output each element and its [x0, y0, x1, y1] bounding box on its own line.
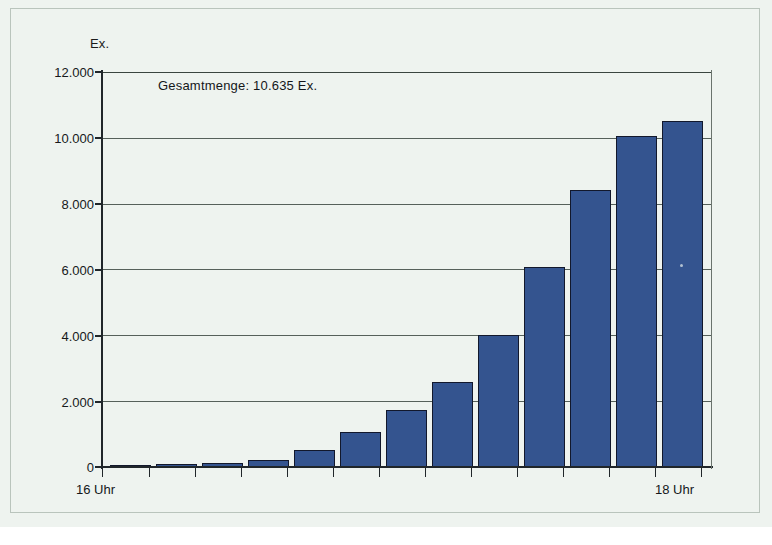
x-tick-mark-3 — [241, 468, 242, 477]
caption-strip — [0, 527, 772, 545]
y-tick-labels: 12.000 10.000 8.000 6.000 4.000 2.000 0 — [22, 0, 94, 545]
total-quantity-annotation: Gesamtmenge: 10.635 Ex. — [158, 78, 317, 93]
x-tick-mark-5 — [333, 468, 334, 477]
y-tick-label-0: 0 — [24, 460, 94, 475]
x-axis-spine — [101, 466, 713, 468]
y-tick-label-4000: 4.000 — [24, 329, 94, 344]
scan-artifact-speck — [680, 264, 683, 267]
y-tick-mark-12000 — [95, 71, 103, 73]
x-tick-mark-1 — [149, 468, 150, 477]
y-tick-mark-2000 — [95, 401, 103, 403]
bar-8 — [432, 382, 473, 467]
x-tick-mark-0 — [102, 468, 103, 477]
y-tick-mark-8000 — [95, 203, 103, 205]
bar-11 — [570, 190, 611, 467]
y-tick-mark-10000 — [95, 137, 103, 139]
y-tick-label-12000: 12.000 — [24, 65, 94, 80]
x-tick-mark-9 — [517, 468, 518, 477]
bars-layer — [102, 72, 712, 467]
x-axis-label-start: 16 Uhr — [76, 482, 115, 497]
x-tick-mark-2 — [195, 468, 196, 477]
figure-panel: Ex. — [0, 0, 772, 527]
x-tick-mark-11 — [609, 468, 610, 477]
y-tick-label-2000: 2.000 — [24, 395, 94, 410]
y-tick-mark-6000 — [95, 269, 103, 271]
x-tick-mark-13 — [701, 468, 702, 477]
bar-10 — [524, 267, 565, 467]
bar-6 — [340, 432, 381, 467]
x-tick-mark-8 — [471, 468, 472, 477]
bar-5 — [294, 450, 335, 467]
bar-9 — [478, 335, 519, 467]
x-tick-mark-7 — [425, 468, 426, 477]
x-axis-label-end: 18 Uhr — [655, 482, 694, 497]
plot-right-edge — [711, 70, 712, 469]
x-tick-mark-10 — [563, 468, 564, 477]
bar-7 — [386, 410, 427, 467]
figure-page: Ex. — [0, 0, 772, 545]
y-tick-label-8000: 8.000 — [24, 197, 94, 212]
y-tick-label-6000: 6.000 — [24, 263, 94, 278]
x-tick-mark-12 — [655, 468, 656, 477]
x-tick-mark-6 — [379, 468, 380, 477]
x-tick-mark-4 — [287, 468, 288, 477]
y-tick-mark-4000 — [95, 335, 103, 337]
y-tick-label-10000: 10.000 — [24, 131, 94, 146]
bar-13 — [662, 121, 703, 467]
bar-12 — [616, 136, 657, 467]
